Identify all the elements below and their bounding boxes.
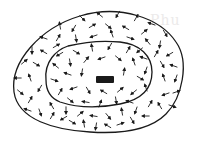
- spin-arrow: [115, 97, 116, 104]
- domain-diagram: [0, 0, 198, 142]
- spin-arrow: [41, 37, 48, 39]
- spin-arrow: [29, 75, 31, 82]
- spin-arrow: [127, 37, 134, 39]
- spin-arrow: [61, 116, 67, 120]
- spin-arrow: [84, 57, 89, 63]
- spin-arrow: [145, 67, 147, 74]
- spin-arrow: [135, 107, 137, 114]
- inner-domain-boundary: [46, 41, 152, 107]
- spin-arrow: [33, 62, 39, 66]
- spin-arrows: [14, 11, 179, 130]
- spin-arrow: [77, 112, 83, 117]
- spin-arrow: [123, 26, 129, 30]
- spin-arrow: [158, 103, 162, 109]
- spin-arrow: [58, 89, 62, 95]
- spin-arrow: [148, 101, 152, 107]
- spin-arrow: [106, 113, 111, 119]
- spin-arrow: [89, 24, 95, 28]
- spin-arrow: [51, 79, 58, 81]
- spin-arrow: [38, 85, 42, 91]
- spin-arrow: [28, 97, 32, 103]
- spin-arrow: [83, 101, 90, 102]
- spin-arrow: [105, 124, 111, 128]
- spin-arrow: [123, 69, 124, 76]
- spin-arrow: [67, 98, 73, 103]
- spin-arrow: [133, 59, 135, 66]
- spin-arrow: [141, 57, 148, 59]
- spin-arrow: [56, 35, 60, 41]
- spin-arrow: [75, 35, 76, 42]
- spin-arrow: [108, 43, 112, 49]
- spin-arrow: [86, 87, 90, 93]
- center-bar: [96, 76, 114, 83]
- spin-arrow: [81, 69, 82, 76]
- spin-arrow: [50, 103, 54, 109]
- spin-arrow: [171, 65, 178, 67]
- spin-arrow: [83, 121, 84, 128]
- spin-arrow: [80, 16, 85, 21]
- spin-arrow: [167, 52, 173, 56]
- spin-arrow: [117, 88, 123, 93]
- spin-arrow: [146, 39, 151, 45]
- spin-arrow: [115, 56, 121, 61]
- spin-arrow: [141, 30, 147, 35]
- spin-arrow: [130, 117, 134, 123]
- spin-arrow: [97, 13, 103, 18]
- spin-arrow: [73, 50, 79, 54]
- spin-arrow: [39, 109, 41, 116]
- spin-arrow: [101, 90, 107, 94]
- spin-arrow: [57, 52, 63, 56]
- spin-arrow: [95, 123, 96, 130]
- spin-arrow: [72, 25, 76, 31]
- spin-arrow: [111, 31, 113, 38]
- spin-arrow: [53, 44, 59, 48]
- spin-arrow: [69, 120, 75, 124]
- spin-arrow: [25, 109, 32, 111]
- spin-arrow: [50, 113, 54, 119]
- spin-arrow: [160, 61, 164, 67]
- spin-arrow: [71, 87, 78, 89]
- spin-arrow: [163, 75, 165, 82]
- spin-arrow: [126, 47, 130, 53]
- spin-arrow: [53, 64, 59, 69]
- spin-arrow: [121, 109, 122, 116]
- spin-arrow: [41, 50, 47, 54]
- spin-arrow: [21, 60, 27, 65]
- spin-arrow: [91, 45, 92, 52]
- spin-arrow: [131, 90, 137, 95]
- spin-arrow: [163, 93, 170, 95]
- spin-arrow: [159, 41, 160, 48]
- spin-arrow: [17, 90, 23, 95]
- spin-arrow: [117, 123, 124, 125]
- spin-arrow: [175, 75, 177, 82]
- spin-arrow: [99, 57, 106, 59]
- outer-domain-boundary: [14, 12, 184, 133]
- spin-arrow: [91, 35, 98, 37]
- spin-arrow: [137, 76, 143, 80]
- spin-arrow: [65, 73, 72, 75]
- spin-arrow: [154, 51, 158, 57]
- spin-arrow: [105, 24, 111, 29]
- spin-arrow: [69, 59, 70, 66]
- spin-arrow: [91, 115, 98, 116]
